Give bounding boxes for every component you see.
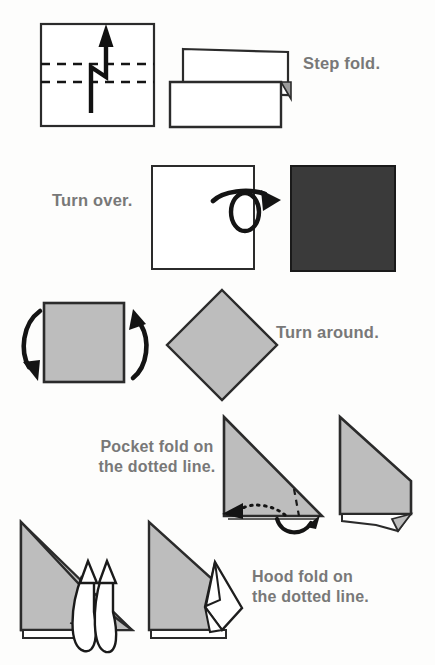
hood-fold-before-shape [21,522,132,652]
hood-fold-after-shape [149,522,242,638]
turn-over-after-square [291,166,395,271]
turn-over-diagram [152,166,395,271]
caption-turn-around: Turn around. [276,322,379,343]
pocket-fold-before-shape [222,417,322,532]
origami-symbols-page: Step fold. Turn over. Turn around. Pocke… [0,0,435,665]
caption-pocket-fold: Pocket fold on the dotted line. [82,437,232,478]
caption-turn-over: Turn over. [52,190,133,211]
pocket-fold-diagram [222,417,411,532]
pocket-fold-swing-arrow-icon [277,515,320,532]
rotation-arrow-left-icon [23,311,40,381]
hood-fold-diagram [21,522,242,652]
turn-around-before-square [44,303,124,382]
step-fold-after-shape [170,49,291,127]
rotation-arrow-right-icon [129,309,146,378]
turn-around-diagram [23,290,277,400]
turn-over-before-square [152,166,254,269]
hood-fold-hollow-double-arrow-icon [73,561,117,652]
caption-hood-fold: Hood fold on the dotted line. [252,567,369,608]
step-fold-diagram [41,24,291,127]
pocket-fold-after-shape [340,417,411,531]
caption-step-fold: Step fold. [303,53,380,74]
turn-around-after-diamond [167,290,277,400]
step-fold-before-square [41,24,154,126]
lower-rect [170,82,281,127]
